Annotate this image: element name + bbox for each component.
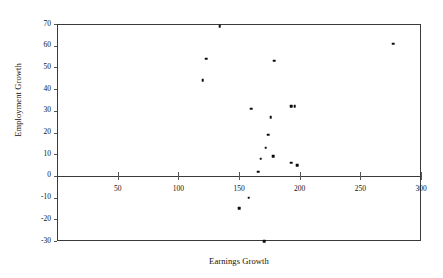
y-tick-label-30: 30 [44, 105, 52, 114]
y-tick-label--20: -20 [41, 214, 51, 223]
y-tick-label-20: 20 [44, 127, 52, 136]
data-point [218, 25, 221, 28]
x-tick-300 [421, 172, 422, 180]
data-point [272, 155, 275, 158]
y-tick-10: 10 [54, 154, 58, 155]
y-tick--30: -30 [54, 241, 58, 242]
x-tick-200 [300, 172, 301, 180]
data-point [205, 57, 208, 60]
data-point [257, 170, 260, 173]
x-tick-label-150: 150 [233, 184, 244, 193]
x-tick-150 [239, 172, 240, 180]
plot-border-right [420, 24, 421, 241]
x-tick-100 [178, 172, 179, 180]
data-point [238, 207, 241, 210]
y-tick-60: 60 [54, 46, 58, 47]
y-tick-label-50: 50 [44, 62, 52, 71]
x-tick-label-200: 200 [294, 184, 305, 193]
x-tick-250 [360, 172, 361, 180]
x-tick-label-300: 300 [415, 184, 426, 193]
data-point [269, 116, 272, 119]
y-tick-20: 20 [54, 133, 58, 134]
plot-border-bottom [57, 240, 421, 241]
y-tick--20: -20 [54, 219, 58, 220]
data-point [260, 157, 263, 160]
x-axis-title: Earnings Growth [57, 256, 421, 266]
y-tick-label-40: 40 [44, 84, 52, 93]
data-point [201, 79, 204, 82]
y-axis-title: Employment Growth [0, 0, 36, 200]
plot-border-left [57, 24, 58, 241]
x-tick-label-250: 250 [355, 184, 366, 193]
y-axis-title-text: Employment Growth [13, 63, 23, 137]
data-point [296, 164, 299, 167]
y-tick-label--30: -30 [41, 236, 51, 245]
data-point [294, 105, 297, 108]
data-point [267, 133, 270, 136]
x-tick-label-100: 100 [173, 184, 184, 193]
y-tick-label-70: 70 [44, 19, 52, 28]
y-tick-label-10: 10 [44, 149, 52, 158]
y-tick-40: 40 [54, 89, 58, 90]
plot-area: 706050403020100-10-20-30 501001502002503… [57, 24, 421, 241]
y-tick-50: 50 [54, 67, 58, 68]
y-tick-0: 0 [54, 176, 58, 177]
y-tick-label-0: 0 [47, 170, 51, 179]
plot-border-top [57, 24, 421, 25]
y-tick-70: 70 [54, 24, 58, 25]
y-tick-label--10: -10 [41, 192, 51, 201]
data-point [273, 60, 276, 63]
y-tick-30: 30 [54, 111, 58, 112]
data-point [290, 162, 293, 165]
scatter-chart-figure: Employment Growth 706050403020100-10-20-… [0, 0, 443, 278]
data-point [263, 240, 266, 243]
x-tick-50 [118, 172, 119, 180]
data-point [392, 42, 395, 45]
y-tick--10: -10 [54, 198, 58, 199]
data-point [264, 146, 267, 149]
data-point [247, 196, 250, 199]
x-tick-label-50: 50 [114, 184, 122, 193]
data-point [290, 105, 293, 108]
data-point [250, 107, 253, 110]
y-tick-label-60: 60 [44, 40, 52, 49]
